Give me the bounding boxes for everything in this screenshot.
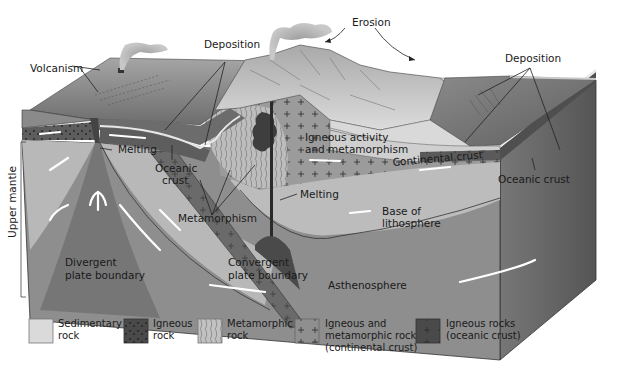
legend-label: (oceanic crust) [446,330,521,341]
legend-label: Igneous rocks [446,318,515,329]
label-upper-mantle: Upper mantle [6,166,18,238]
flow-arrow [310,160,340,161]
label-metamorphism: Metamorphism [178,212,257,224]
label-oceanic-crust-left-2: crust [162,174,188,186]
label-melting-subduction: Melting [300,188,339,200]
legend-label: Igneous [153,318,192,329]
label-base-lithosphere-1: Base of [382,205,421,217]
label-melting-ridge: Melting [118,143,157,155]
label-erosion: Erosion [352,16,391,28]
label-oceanic-crust-left-1: Oceanic [155,162,198,174]
erosion-arrow-right [375,28,415,60]
label-divergent-2: plate boundary [65,269,145,281]
label-deposition-left: Deposition [204,38,260,50]
label-igneous-activity-1: Igneous activity [305,131,388,143]
label-oceanic-crust-right: Oceanic crust [498,173,570,185]
label-igneous-activity-2: and metamorphism [305,143,408,155]
label-convergent-1: Convergent [228,256,289,268]
label-volcanism: Volcanism [30,62,83,74]
legend-label: rock [227,330,249,341]
legend-label: (continental crust) [325,342,417,353]
legend-label: metamorphic rock [325,330,417,341]
legend-label: Sedimentary [58,318,122,329]
legend-label: Metamorphic [227,318,293,329]
plate-tectonics-diagram: Volcanism Deposition Erosion Deposition … [0,0,626,370]
legend-item-oceanic-crust: Igneous rocks (oceanic crust) [416,318,521,343]
legend-label: rock [153,330,175,341]
label-divergent-1: Divergent [65,256,117,268]
label-base-lithosphere-2: lithosphere [382,217,441,229]
legend-item-sedimentary: Sedimentary rock [29,318,122,343]
legend-label: Igneous and [325,318,386,329]
erosion-arrowhead-left [325,38,331,43]
label-asthenosphere: Asthenosphere [328,279,407,291]
label-deposition-right: Deposition [505,52,561,64]
label-convergent-2: plate boundary [228,269,308,281]
legend-label: rock [58,330,80,341]
swatch-sedimentary [29,319,53,343]
erosion-arrowhead-right [409,56,415,61]
